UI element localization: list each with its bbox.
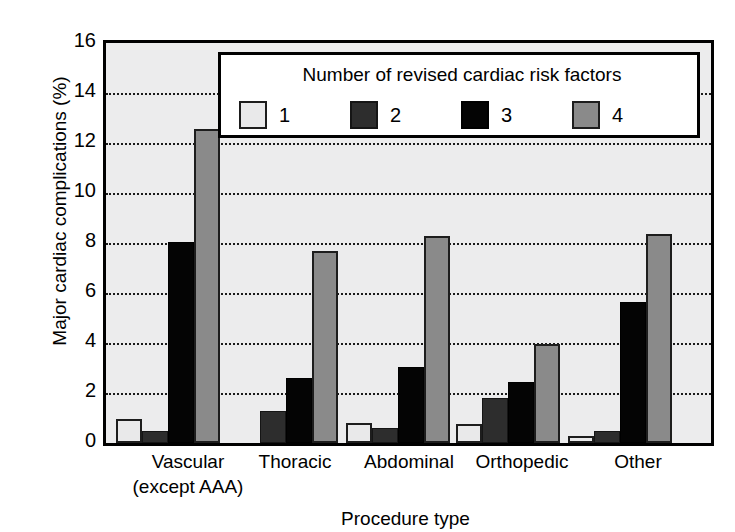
bar-orthopedic-series-2 bbox=[482, 398, 508, 443]
x-tick-thoracic: Thoracic bbox=[235, 449, 355, 474]
bar-abdominal-series-1 bbox=[346, 423, 372, 443]
bar-chart-figure: Major cardiac complications (%) 16 14 12… bbox=[0, 0, 735, 532]
x-tick-orthopedic-line1: Orthopedic bbox=[476, 451, 569, 472]
legend-label-3: 3 bbox=[501, 105, 512, 125]
x-axis-tick-labels: Vascular (except AAA) Thoracic Abdominal… bbox=[103, 449, 708, 509]
y-tick-8: 8 bbox=[62, 230, 96, 250]
x-axis-title: Procedure type bbox=[103, 508, 708, 530]
x-tick-other: Other bbox=[573, 449, 703, 474]
y-tick-12: 12 bbox=[62, 130, 96, 150]
legend-label-2: 2 bbox=[390, 105, 401, 125]
bar-other-series-4 bbox=[646, 234, 672, 443]
x-tick-thoracic-line1: Thoracic bbox=[259, 451, 332, 472]
legend-item-1: 1 bbox=[239, 101, 350, 129]
y-tick-14: 14 bbox=[62, 80, 96, 100]
x-tick-other-line1: Other bbox=[614, 451, 662, 472]
legend-swatch-4-icon bbox=[572, 101, 600, 129]
bar-orthopedic-series-4 bbox=[534, 344, 560, 443]
x-tick-vascular-line1: Vascular bbox=[152, 451, 225, 472]
y-tick-2: 2 bbox=[62, 380, 96, 400]
bar-thoracic-series-2 bbox=[260, 411, 286, 444]
x-tick-abdominal-line1: Abdominal bbox=[364, 451, 454, 472]
y-tick-10: 10 bbox=[62, 180, 96, 200]
legend-item-4: 4 bbox=[572, 101, 683, 129]
legend-item-2: 2 bbox=[350, 101, 461, 129]
legend-swatch-1-icon bbox=[239, 101, 267, 129]
y-tick-16: 16 bbox=[62, 30, 96, 50]
y-tick-4: 4 bbox=[62, 330, 96, 350]
x-tick-orthopedic: Orthopedic bbox=[455, 449, 589, 474]
bar-vascular-series-4 bbox=[194, 129, 220, 443]
y-tick-0: 0 bbox=[62, 430, 96, 450]
bar-vascular-series-1 bbox=[116, 419, 142, 443]
bar-abdominal-series-3 bbox=[398, 367, 424, 443]
bar-abdominal-series-2 bbox=[372, 428, 398, 443]
x-tick-vascular-line2: (except AAA) bbox=[103, 474, 273, 499]
legend-item-3: 3 bbox=[461, 101, 572, 129]
y-tick-6: 6 bbox=[62, 280, 96, 300]
bar-orthopedic-series-3 bbox=[508, 382, 534, 443]
bar-orthopedic-series-1 bbox=[456, 424, 482, 443]
bar-vascular-series-2 bbox=[142, 431, 168, 444]
bar-vascular-series-3 bbox=[168, 242, 194, 443]
bar-other-series-3 bbox=[620, 302, 646, 443]
legend-swatch-3-icon bbox=[461, 101, 489, 129]
legend-label-1: 1 bbox=[279, 105, 290, 125]
legend-items: 1 2 3 4 bbox=[239, 99, 685, 131]
bar-other-series-1 bbox=[568, 436, 594, 444]
legend-swatch-2-icon bbox=[350, 101, 378, 129]
legend: Number of revised cardiac risk factors 1… bbox=[218, 52, 700, 138]
y-axis-tick-labels: 16 14 12 10 8 6 4 2 0 bbox=[58, 0, 96, 532]
bar-thoracic-series-3 bbox=[286, 378, 312, 443]
bar-other-series-2 bbox=[594, 431, 620, 444]
legend-label-4: 4 bbox=[612, 105, 623, 125]
bar-abdominal-series-4 bbox=[424, 236, 450, 444]
bar-thoracic-series-4 bbox=[312, 251, 338, 444]
legend-title: Number of revised cardiac risk factors bbox=[221, 64, 703, 86]
